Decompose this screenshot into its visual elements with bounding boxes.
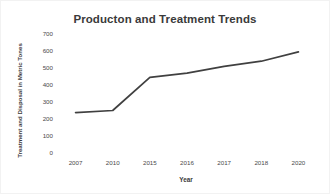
x-axis-tick-labels: 2007201020152016201720182020 xyxy=(57,160,317,172)
line-chart: Producton and Treatment Trends Treatment… xyxy=(0,0,330,194)
x-tick-label: 2017 xyxy=(217,160,231,166)
x-tick-label: 2015 xyxy=(143,160,157,166)
y-tick-label: 300 xyxy=(31,99,53,105)
x-tick-label: 2010 xyxy=(106,160,120,166)
y-axis-tick-labels: 7006005004003002001000 xyxy=(31,34,53,156)
y-tick-label: 500 xyxy=(31,65,53,71)
data-series-line xyxy=(76,52,299,113)
plot-svg xyxy=(57,34,317,153)
y-tick-label: 700 xyxy=(31,31,53,37)
y-tick-label: 200 xyxy=(31,116,53,122)
x-tick-label: 2007 xyxy=(69,160,83,166)
chart-title: Producton and Treatment Trends xyxy=(1,13,329,25)
x-tick-label: 2016 xyxy=(180,160,194,166)
y-axis-title: Treatment and Disposal in Metric Tones xyxy=(16,36,23,166)
x-axis-title: Year xyxy=(57,176,315,183)
y-tick-label: 100 xyxy=(31,133,53,139)
plot-area xyxy=(57,34,317,153)
y-tick-label: 0 xyxy=(31,150,53,156)
y-tick-label: 400 xyxy=(31,82,53,88)
y-tick-label: 600 xyxy=(31,48,53,54)
x-tick-label: 2020 xyxy=(292,160,306,166)
x-tick-label: 2018 xyxy=(254,160,268,166)
